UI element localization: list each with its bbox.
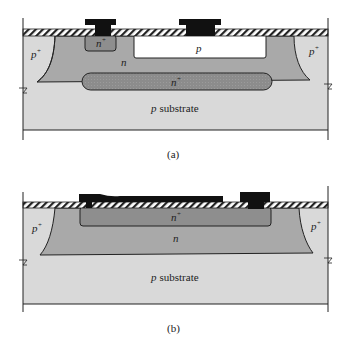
caption-a: (a) xyxy=(167,148,180,161)
caption-b: (b) xyxy=(167,322,180,335)
label-n-region-a: n xyxy=(121,56,127,68)
figure-b: p+ p+ n+ n psubstrate (b) xyxy=(19,186,332,335)
bjt-cross-section-diagrams: p+ p+ n+ p n n+ psubstrate (a) p+ p+ n+ … xyxy=(0,0,350,338)
figure-a: p+ p+ n+ p n n+ psubstrate (a) xyxy=(19,18,332,161)
oxide-layer-b xyxy=(23,202,328,208)
label-n-region-b: n xyxy=(173,232,179,244)
label-p-region-a: p xyxy=(195,42,202,54)
oxide-layer-a xyxy=(23,29,328,36)
